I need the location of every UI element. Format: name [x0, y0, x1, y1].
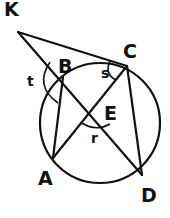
label-E: E: [104, 102, 117, 124]
segment-KC: [18, 32, 127, 66]
geometry-diagram: K B C E A D t s r: [0, 0, 170, 218]
angle-label-s: s: [101, 65, 109, 81]
label-C: C: [123, 40, 137, 62]
angle-label-r: r: [91, 130, 98, 146]
label-D: D: [141, 184, 157, 206]
angle-label-t: t: [27, 73, 34, 89]
label-A: A: [38, 167, 53, 189]
label-B: B: [58, 55, 72, 77]
diagram-svg: K B C E A D t s r: [0, 0, 170, 218]
label-K: K: [4, 0, 20, 20]
